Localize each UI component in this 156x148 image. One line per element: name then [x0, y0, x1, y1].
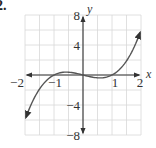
x-axis-label: x [145, 67, 152, 81]
x-tick-label: 1 [112, 75, 119, 90]
cubic-function-graph: −2−11284−4−8yx [0, 0, 156, 148]
x-tick-label: −2 [10, 75, 24, 90]
y-tick-label: −8 [66, 128, 80, 143]
x-tick-label: 2 [137, 75, 144, 90]
tick-labels: −2−11284−4−8yx [10, 2, 152, 143]
y-axis-label: y [86, 2, 93, 16]
y-tick-label: −4 [66, 98, 80, 113]
y-tick-label: 4 [74, 38, 81, 53]
x-tick-label: −1 [48, 75, 62, 90]
y-tick-label: 8 [74, 8, 81, 23]
